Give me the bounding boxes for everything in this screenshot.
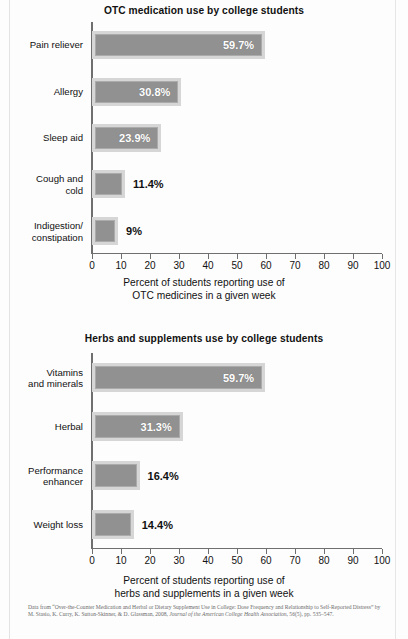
- category-label: Performance enhancer: [0, 464, 83, 487]
- bar[interactable]: 59.7%: [92, 31, 265, 59]
- bar[interactable]: 23.9%: [92, 124, 161, 152]
- x-axis-tick-label: 40: [202, 555, 213, 566]
- bar-row: Pain reliever59.7%: [92, 31, 382, 59]
- bar-row: Performance enhancer16.4%: [92, 461, 382, 490]
- bar[interactable]: [92, 170, 125, 198]
- plot-area-otc: Pain reliever59.7%Allergy30.8%Sleep aid2…: [92, 22, 382, 254]
- x-axis-tick-label: 60: [260, 555, 271, 566]
- bar-row: Sleep aid23.9%: [92, 124, 382, 152]
- x-axis-tick-label: 90: [347, 260, 358, 271]
- bar-fill: 59.7%: [95, 366, 262, 389]
- bar-row: Indigestion/ constipation9%: [92, 217, 382, 245]
- x-axis-tick-label: 70: [289, 260, 300, 271]
- x-axis-tick-label: 40: [202, 260, 213, 271]
- category-label: Pain reliever: [0, 39, 83, 51]
- x-axis-tick-label: 20: [144, 555, 155, 566]
- bar[interactable]: 59.7%: [92, 363, 265, 392]
- bar[interactable]: [92, 461, 140, 490]
- category-label: Sleep aid: [0, 132, 83, 144]
- bar-fill: [95, 220, 115, 242]
- x-axis-tick-label: 10: [115, 555, 126, 566]
- x-axis-tick: [266, 549, 267, 554]
- x-axis-caption-otc: Percent of students reporting use of OTC…: [0, 277, 408, 302]
- bar[interactable]: [92, 510, 134, 539]
- x-axis-tick: [179, 254, 180, 259]
- bar-value-label: 16.4%: [148, 470, 179, 482]
- bar-value-label: 9%: [126, 225, 142, 237]
- source-note-line-1: Data from “Over-the-Counter Medication a…: [28, 604, 283, 610]
- bar-fill: [95, 464, 137, 487]
- bar-fill: [95, 513, 131, 536]
- bar-value-label: 59.7%: [223, 372, 254, 384]
- x-axis-tick: [179, 549, 180, 554]
- bar-fill: 59.7%: [95, 34, 262, 56]
- x-axis-tick: [150, 254, 151, 259]
- x-axis-tick-label: 50: [231, 555, 242, 566]
- bar[interactable]: 30.8%: [92, 78, 181, 106]
- bar-row: Weight loss14.4%: [92, 510, 382, 539]
- x-axis-tick: [208, 254, 209, 259]
- bar-fill: [95, 173, 122, 195]
- x-axis-tick: [382, 254, 383, 259]
- chart-title-otc: OTC medication use by college students: [0, 5, 408, 16]
- category-label: Weight loss: [0, 519, 83, 531]
- x-axis-tick: [150, 549, 151, 554]
- x-axis-tick-label: 100: [374, 260, 391, 271]
- x-axis-tick-label: 60: [260, 260, 271, 271]
- category-label: Vitamins and minerals: [0, 366, 83, 389]
- bar-row: Vitamins and minerals59.7%: [92, 363, 382, 392]
- x-axis-tick-label: 0: [89, 260, 95, 271]
- x-axis-tick: [92, 549, 93, 554]
- source-note-journal-1: Journal: [169, 611, 186, 617]
- x-axis-caption-herbs: Percent of students reporting use of her…: [0, 575, 408, 600]
- category-label: Herbal: [0, 421, 83, 433]
- x-axis-tick: [266, 254, 267, 259]
- chart-title-herbs: Herbs and supplements use by college stu…: [0, 333, 408, 344]
- bar-row: Herbal31.3%: [92, 412, 382, 441]
- x-axis-tick-label: 70: [289, 555, 300, 566]
- x-axis-tick-label: 30: [173, 260, 184, 271]
- x-axis-tick-label: 30: [173, 555, 184, 566]
- x-axis-tick-label: 10: [115, 260, 126, 271]
- source-note-line-3: , 56(5), pp. 535–547.: [287, 611, 334, 617]
- bar-value-label: 30.8%: [139, 86, 170, 98]
- category-label: Indigestion/ constipation: [0, 220, 83, 243]
- category-label: Allergy: [0, 86, 83, 98]
- x-axis-tick: [121, 549, 122, 554]
- x-axis-tick: [382, 549, 383, 554]
- chart-otc-medication: OTC medication use by college students P…: [0, 0, 408, 310]
- bar-value-label: 59.7%: [223, 39, 254, 51]
- plot-area-herbs: Vitamins and minerals59.7%Herbal31.3%Per…: [92, 353, 382, 549]
- bar-value-label: 23.9%: [119, 132, 150, 144]
- bar[interactable]: 31.3%: [92, 412, 183, 441]
- x-axis-tick: [208, 549, 209, 554]
- x-axis-tick-label: 100: [374, 555, 391, 566]
- x-axis-tick: [353, 549, 354, 554]
- x-axis-tick: [353, 254, 354, 259]
- bar-value-label: 14.4%: [142, 519, 173, 531]
- x-axis-tick: [324, 254, 325, 259]
- x-axis-tick: [295, 549, 296, 554]
- x-axis-tick: [324, 549, 325, 554]
- bar-value-label: 31.3%: [141, 421, 172, 433]
- bar-row: Allergy30.8%: [92, 78, 382, 106]
- bar-fill: 31.3%: [95, 415, 180, 438]
- bar-fill: 23.9%: [95, 127, 158, 149]
- bar-value-label: 11.4%: [133, 178, 164, 190]
- category-label: Cough and cold: [0, 173, 83, 196]
- bar[interactable]: [92, 217, 118, 245]
- x-axis-tick: [237, 254, 238, 259]
- x-axis-tick: [92, 254, 93, 259]
- bar-fill: 30.8%: [95, 81, 178, 103]
- x-axis-tick: [121, 254, 122, 259]
- source-note-journal-2: of the American College Health Associati…: [188, 611, 286, 617]
- figure-page: OTC medication use by college students P…: [0, 0, 408, 639]
- bar-row: Cough and cold11.4%: [92, 170, 382, 198]
- x-axis-tick: [295, 254, 296, 259]
- source-note: Data from “Over-the-Counter Medication a…: [28, 604, 383, 618]
- x-axis-tick-label: 80: [318, 555, 329, 566]
- x-axis-tick-label: 20: [144, 260, 155, 271]
- x-axis-tick-label: 0: [89, 555, 95, 566]
- chart-herbs-supplements: Herbs and supplements use by college stu…: [0, 325, 408, 600]
- x-axis-tick-label: 90: [347, 555, 358, 566]
